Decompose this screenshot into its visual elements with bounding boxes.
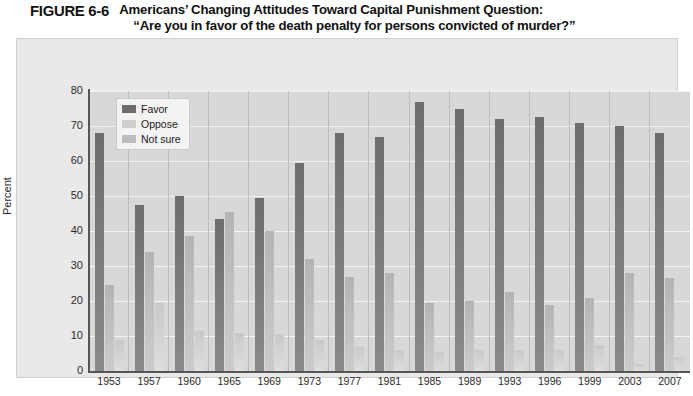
x-axis-line: [88, 371, 690, 373]
chart-legend: Favor Oppose Not sure: [116, 98, 190, 150]
bar-notsure: [515, 350, 524, 371]
bar-favor: [375, 137, 384, 372]
bar-oppose: [625, 273, 634, 371]
bar-oppose: [265, 231, 274, 371]
bar-oppose: [185, 236, 194, 371]
bar-favor: [615, 126, 624, 371]
x-axis-tick-label: 1965: [209, 375, 249, 387]
y-axis-tick-label: 50: [43, 189, 83, 201]
bar-oppose: [145, 252, 154, 371]
bar-notsure: [315, 340, 324, 372]
bar-group: [530, 91, 570, 371]
bar-group: [209, 91, 249, 371]
x-axis-tick-label: 1953: [89, 375, 129, 387]
x-axis-tick-label: 2003: [610, 375, 650, 387]
legend-item-favor: Favor: [122, 103, 181, 115]
legend-item-oppose: Oppose: [122, 118, 181, 130]
figure-title: Americans’ Changing Attitudes Toward Cap…: [119, 2, 575, 34]
x-axis-tick-label: 1999: [570, 375, 610, 387]
bar-group: [570, 91, 610, 371]
y-axis-tick-label: 10: [43, 329, 83, 341]
bar-notsure: [355, 347, 364, 372]
bar-notsure: [475, 350, 484, 371]
bar-favor: [135, 205, 144, 371]
x-axis-tick-label: 1977: [329, 375, 369, 387]
bar-favor: [335, 133, 344, 371]
bar-notsure: [155, 303, 164, 371]
x-axis-tick-label: 1981: [369, 375, 409, 387]
x-axis-tick-label: 1993: [490, 375, 530, 387]
bar-oppose: [465, 301, 474, 371]
x-axis-tick-label: 2007: [650, 375, 690, 387]
x-axis-tick-label: 1960: [169, 375, 209, 387]
bar-group: [410, 91, 450, 371]
y-axis-tick-label: 40: [43, 224, 83, 236]
bar-favor: [415, 102, 424, 372]
legend-swatch-not-sure-icon: [122, 135, 136, 143]
y-axis-label: Percent: [1, 177, 13, 215]
bar-notsure: [115, 340, 124, 372]
bar-favor: [175, 196, 184, 371]
bar-group: [329, 91, 369, 371]
bar-oppose: [225, 212, 234, 371]
bar-oppose: [585, 298, 594, 372]
bar-oppose: [545, 305, 554, 372]
bar-oppose: [305, 259, 314, 371]
bar-notsure: [195, 331, 204, 371]
bar-group: [490, 91, 530, 371]
bar-favor: [495, 119, 504, 371]
bar-oppose: [505, 292, 514, 371]
figure-title-line-1: Americans’ Changing Attitudes Toward Cap…: [119, 2, 575, 18]
bar-oppose: [665, 278, 674, 371]
x-axis-tick-label: 1985: [410, 375, 450, 387]
bar-favor: [575, 123, 584, 372]
y-axis-ticks: 80706050403020100: [39, 91, 83, 371]
bar-favor: [455, 109, 464, 372]
bar-favor: [655, 133, 664, 371]
bar-group: [289, 91, 329, 371]
bar-oppose: [385, 273, 394, 371]
bar-group: [450, 91, 490, 371]
bar-notsure: [555, 350, 564, 371]
bar-notsure: [435, 352, 444, 371]
bar-notsure: [595, 345, 604, 371]
bar-notsure: [235, 333, 244, 372]
bar-oppose: [105, 285, 114, 371]
y-axis-tick-label: 30: [43, 259, 83, 271]
legend-label-not-sure: Not sure: [141, 133, 181, 145]
x-axis-tick-label: 1973: [289, 375, 329, 387]
bar-favor: [295, 163, 304, 371]
bar-favor: [255, 198, 264, 371]
chart-panel: 80706050403020100 Percent 19531957196019…: [16, 38, 678, 378]
bar-favor: [535, 117, 544, 371]
x-axis-tick-label: 1957: [129, 375, 169, 387]
bar-group: [610, 91, 650, 371]
bar-notsure: [675, 357, 684, 371]
figure-header: FIGURE 6-6 Americans’ Changing Attitudes…: [0, 0, 693, 40]
bar-notsure: [395, 350, 404, 371]
bar-oppose: [345, 277, 354, 372]
y-axis-tick-label: 0: [43, 364, 83, 376]
legend-swatch-favor-icon: [122, 105, 136, 113]
legend-label-oppose: Oppose: [141, 118, 178, 130]
bar-notsure: [635, 364, 644, 371]
legend-label-favor: Favor: [141, 103, 168, 115]
bar-notsure: [275, 334, 284, 371]
bar-oppose: [425, 303, 434, 371]
x-axis-tick-label: 1996: [530, 375, 570, 387]
bar-group: [249, 91, 289, 371]
legend-swatch-oppose-icon: [122, 120, 136, 128]
bar-favor: [215, 219, 224, 371]
x-axis-tick-label: 1969: [249, 375, 289, 387]
legend-item-not-sure: Not sure: [122, 133, 181, 145]
x-axis-tick-label: 1989: [450, 375, 490, 387]
y-axis-tick-label: 70: [43, 119, 83, 131]
figure-title-line-2: “Are you in favor of the death penalty f…: [119, 18, 575, 34]
y-axis-tick-label: 60: [43, 154, 83, 166]
bar-favor: [95, 133, 104, 371]
x-axis-ticks: 1953195719601965196919731977198119851989…: [89, 375, 690, 387]
y-axis-tick-label: 20: [43, 294, 83, 306]
bar-group: [650, 91, 690, 371]
figure-number: FIGURE 6-6: [30, 2, 109, 19]
bar-group: [369, 91, 409, 371]
